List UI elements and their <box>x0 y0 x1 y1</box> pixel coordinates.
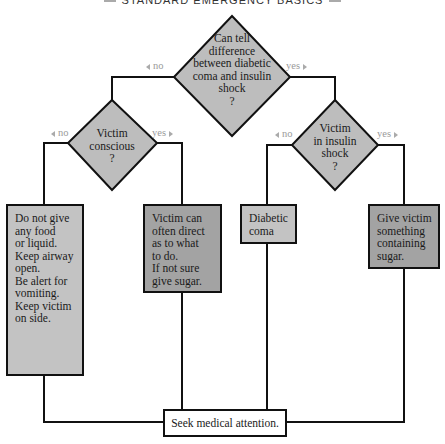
action-box-unconscious: Do not give any food or liquid. Keep air… <box>6 204 84 376</box>
branch-label-conscious-no: no <box>51 127 69 138</box>
final-action-text: Seek medical attention. <box>169 417 281 430</box>
action-line: Keep airway <box>15 250 78 263</box>
branch-label-top-no: no <box>146 60 164 71</box>
decision-top-line: Can tell <box>172 32 292 45</box>
arrow-left-icon <box>146 64 150 70</box>
arrow-right-icon <box>394 132 398 138</box>
action-line: Victim can <box>152 212 216 225</box>
connector-top-no <box>112 77 174 100</box>
branch-text: no <box>153 60 164 71</box>
decision-top-line: shock <box>172 82 292 95</box>
branch-text: yes <box>286 60 300 71</box>
connector-conscious-no <box>44 143 68 204</box>
branch-label-insulin-yes: yes <box>377 128 398 139</box>
branch-text: no <box>282 128 293 139</box>
connector-top-yes <box>290 77 335 100</box>
connector-insulin-yes <box>378 145 404 204</box>
arrow-left-icon <box>275 132 279 138</box>
branch-label-conscious-yes: yes <box>152 127 173 138</box>
branch-label-top-yes: yes <box>286 60 307 71</box>
action-line: something <box>377 225 434 238</box>
action-line: to do. <box>152 250 216 263</box>
arrow-right-icon <box>303 64 307 70</box>
action-line: Give victim <box>377 212 434 225</box>
decision-insulin-line: shock <box>295 147 375 160</box>
decision-top-line: ? <box>172 95 292 108</box>
arrow-left-icon <box>51 131 55 137</box>
branch-label-insulin-no: no <box>275 128 293 139</box>
branch-text: yes <box>152 127 166 138</box>
connector-unconscious-final <box>44 376 163 422</box>
action-line: Be alert for <box>15 275 78 288</box>
final-action-box: Seek medical attention. <box>163 409 287 437</box>
decision-top-line: difference <box>172 45 292 58</box>
action-line: sugar. <box>377 250 434 263</box>
action-line: Diabetic <box>249 212 291 225</box>
decision-top-text: Can tell difference between diabetic com… <box>172 32 292 107</box>
action-line: on side. <box>15 312 78 325</box>
action-line: often direct <box>152 225 216 238</box>
decision-insulin-text: Victim in insulin shock ? <box>295 122 375 172</box>
arrow-right-icon <box>169 131 173 137</box>
action-box-insulin-shock: Give victim something containing sugar. <box>368 204 440 269</box>
action-line: give sugar. <box>152 275 216 288</box>
decision-insulin-line: Victim <box>295 122 375 135</box>
decision-conscious-line: conscious <box>72 140 152 153</box>
decision-top-line: coma and insulin <box>172 70 292 83</box>
decision-top-line: between diabetic <box>172 57 292 70</box>
action-line: Do not give <box>15 212 78 225</box>
action-line: containing <box>377 237 434 250</box>
action-line: any food <box>15 225 78 238</box>
connector-insulin-no <box>267 145 292 204</box>
decision-insulin-line: ? <box>295 160 375 173</box>
action-line: Keep victim <box>15 300 78 313</box>
connector-insulin-final <box>286 268 404 422</box>
action-line: or liquid. <box>15 237 78 250</box>
action-line: open. <box>15 262 78 275</box>
connector-conscious-yes <box>157 143 182 204</box>
decision-conscious-line: Victim <box>72 127 152 140</box>
action-line: If not sure <box>152 262 216 275</box>
decision-conscious-text: Victim conscious ? <box>72 127 152 165</box>
branch-text: yes <box>377 128 391 139</box>
branch-text: no <box>58 127 69 138</box>
action-line: as to what <box>152 237 216 250</box>
action-box-diabetic-coma: Diabetic coma <box>240 204 297 244</box>
decision-conscious-line: ? <box>72 152 152 165</box>
action-line: coma <box>249 225 291 238</box>
action-box-conscious: Victim can often direct as to what to do… <box>143 204 222 293</box>
action-line: vomiting. <box>15 287 78 300</box>
decision-insulin-line: in insulin <box>295 135 375 148</box>
